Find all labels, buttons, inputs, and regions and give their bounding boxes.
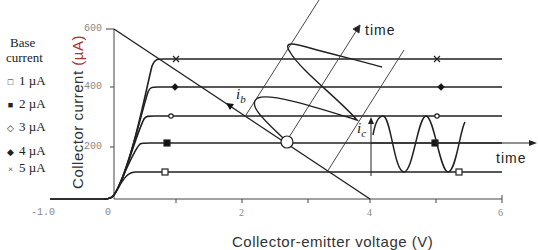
x-tick-2: 2 [239,207,244,218]
legend-title-line2: current [6,51,43,64]
ic-waveform-group [368,116,537,176]
open-square-icon: □ [6,78,15,87]
characteristic-curves [50,59,502,199]
x-tick-6: 6 [498,207,503,218]
time-label-right: time [496,150,526,166]
filled-diamond-icon: ◆ [6,148,15,157]
time-label-upper: time [365,22,395,38]
ic-label: ic [357,120,366,139]
legend-item-3ua: ◇3 µA [6,120,46,133]
operating-point [281,136,293,148]
legend-item-2ua: ■2 µA [6,97,46,110]
cross-icon: × [6,165,15,174]
legend-title-line1: Base [10,36,35,49]
ib-label: ib [236,86,246,105]
x-tick-neg1: -1.0 [31,207,55,218]
x-tick-4: 4 [367,207,372,218]
load-line [114,29,370,199]
y-axis-label: Collector current (µA) [69,35,86,189]
legend-item-4ua: ◆4 µA [6,144,46,157]
x-tick-0: 0 [105,207,111,218]
x-axis-label: Collector-emitter voltage (V) [232,233,433,250]
legend-item-1ua: □1 µA [6,74,46,87]
legend-item-5ua: ×5 µA [6,161,46,174]
y-axis-unit: (µA) [69,35,86,66]
y-tick-200: 200 [84,141,102,152]
open-diamond-icon: ◇ [6,124,15,133]
y-tick-400: 400 [84,81,102,92]
filled-square-icon: ■ [6,101,15,110]
y-tick-600: 600 [84,23,102,34]
